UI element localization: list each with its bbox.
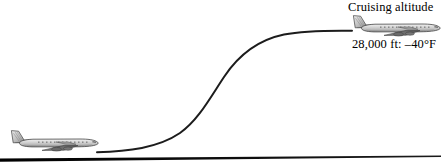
runway-ground-line: [0, 155, 441, 161]
flight-path-diagram: [0, 0, 441, 167]
flight-path-curve: [97, 31, 352, 153]
airplane-on-runway: [11, 131, 98, 152]
flight-path-figure: Cruising altitude 28,000 ft: –40°F: [0, 0, 441, 167]
cruising-altitude-label: Cruising altitude: [348, 1, 433, 14]
altitude-temperature-label: 28,000 ft: –40°F: [352, 38, 436, 51]
airplane-at-cruising-altitude: [353, 16, 440, 36]
